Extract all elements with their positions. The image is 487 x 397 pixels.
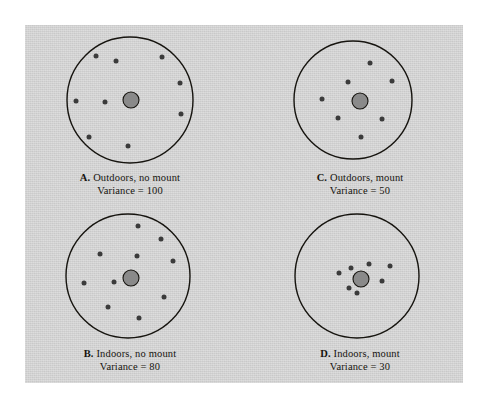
shot-dot	[347, 286, 352, 291]
caption-letter-c: C.	[317, 172, 328, 183]
bullseye-blob-a	[123, 92, 139, 108]
shot-dot	[171, 259, 176, 264]
bullseye-blob-c	[352, 93, 368, 109]
target-panel-c	[294, 41, 412, 159]
caption-panel-a: A. Outdoors, no mount Variance = 100	[52, 172, 208, 197]
caption-letter-b: B.	[84, 348, 94, 359]
shot-dot	[94, 54, 99, 59]
shot-dot	[114, 59, 119, 64]
shot-dot	[367, 262, 372, 267]
shot-dot	[112, 280, 117, 285]
shot-dot	[98, 252, 103, 257]
caption-title-b: Indoors, no mount	[96, 348, 176, 359]
shot-dot	[136, 224, 141, 229]
caption-title-d: Indoors, mount	[334, 348, 400, 359]
caption-panel-c: C. Outdoors, mount Variance = 50	[282, 172, 438, 197]
target-panel-d	[295, 214, 419, 338]
shot-dot	[82, 281, 87, 286]
shot-dot	[380, 117, 385, 122]
shot-dot	[388, 264, 393, 269]
shot-dot	[106, 305, 111, 310]
target-panel-a	[67, 37, 193, 163]
caption-variance-b: Variance = 80	[52, 361, 208, 374]
shot-dot	[179, 112, 184, 117]
shot-dot	[346, 80, 351, 85]
bullseye-blob-b	[123, 270, 139, 286]
shot-dot	[87, 135, 92, 140]
shot-dot	[349, 266, 354, 271]
shot-dot	[336, 116, 341, 121]
shot-dot	[337, 271, 342, 276]
shot-dot	[178, 81, 183, 86]
caption-panel-b: B. Indoors, no mount Variance = 80	[52, 348, 208, 373]
bullseye-blob-d	[353, 271, 369, 287]
shot-dot	[380, 279, 385, 284]
shot-dot	[359, 135, 364, 140]
shot-dot	[162, 295, 167, 300]
targets-layer	[0, 0, 487, 397]
shot-dot	[160, 55, 165, 60]
caption-variance-d: Variance = 30	[282, 361, 438, 374]
shot-dot	[368, 61, 373, 66]
caption-title-c: Outdoors, mount	[330, 172, 403, 183]
shot-dot	[135, 254, 140, 259]
shot-dot	[390, 79, 395, 84]
caption-variance-a: Variance = 100	[52, 185, 208, 198]
target-panel-b	[66, 214, 190, 338]
shot-dot	[159, 237, 164, 242]
shot-dot	[126, 144, 131, 149]
caption-letter-a: A.	[80, 172, 91, 183]
shot-dot	[74, 99, 79, 104]
shot-dot	[355, 291, 360, 296]
figure-root: A. Outdoors, no mount Variance = 100 C. …	[0, 0, 487, 397]
caption-variance-c: Variance = 50	[282, 185, 438, 198]
caption-title-a: Outdoors, no mount	[93, 172, 180, 183]
shot-dot	[137, 316, 142, 321]
shot-dot	[320, 97, 325, 102]
caption-letter-d: D.	[320, 348, 331, 359]
caption-panel-d: D. Indoors, mount Variance = 30	[282, 348, 438, 373]
shot-dot	[103, 100, 108, 105]
